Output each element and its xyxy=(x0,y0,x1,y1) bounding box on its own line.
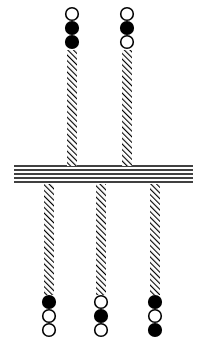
bottom-strand-3 xyxy=(149,184,162,336)
strands-group xyxy=(43,8,162,337)
open-bead-icon xyxy=(43,324,56,337)
open-bead-icon xyxy=(121,36,134,49)
filled-bead-icon xyxy=(95,310,108,323)
open-bead-icon xyxy=(149,310,162,323)
hatched-stem xyxy=(67,50,77,166)
filled-bead-icon xyxy=(121,22,134,35)
diagram-canvas xyxy=(0,0,201,350)
top-strand-2 xyxy=(121,8,134,166)
filled-bead-icon xyxy=(149,296,162,309)
filled-bead-icon xyxy=(66,36,79,49)
hatched-stem xyxy=(44,184,54,295)
bottom-strand-1 xyxy=(43,184,56,336)
open-bead-icon xyxy=(121,8,134,21)
open-bead-icon xyxy=(95,296,108,309)
top-strand-1 xyxy=(66,8,79,166)
hatched-stem xyxy=(96,184,106,295)
hatched-stem xyxy=(150,184,160,295)
hatched-stem xyxy=(122,50,132,166)
filled-bead-icon xyxy=(149,324,162,337)
filled-bead-icon xyxy=(66,22,79,35)
open-bead-icon xyxy=(43,310,56,323)
open-bead-icon xyxy=(95,324,108,337)
open-bead-icon xyxy=(66,8,79,21)
bottom-strand-2 xyxy=(95,184,108,336)
filled-bead-icon xyxy=(43,296,56,309)
membrane-bar xyxy=(14,166,193,182)
